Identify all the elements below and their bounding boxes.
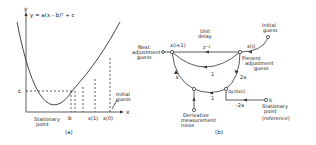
derivative-label: dy/dx(i) xyxy=(228,89,246,94)
node-output xyxy=(162,51,165,54)
arrow-icon xyxy=(205,51,209,54)
y-axis-label: y xyxy=(24,5,28,13)
caption-a: (a) xyxy=(65,129,73,135)
noise-label-3: noise xyxy=(181,122,194,128)
gain-k-branch xyxy=(172,52,194,89)
diagram-canvas: y x y = a(x - b)² + c c b x(1) x(0) Stat… xyxy=(0,0,316,145)
arrow-icon xyxy=(203,66,207,69)
stationary-ref-label-2: point xyxy=(264,108,277,115)
c-label: c xyxy=(18,87,21,94)
arrow-icon xyxy=(193,97,196,101)
present-guess-label-3: guess xyxy=(254,65,269,72)
equation-label: y = a(x - b)² + c xyxy=(30,12,75,19)
gain-1-lower-branch xyxy=(194,89,226,93)
x-axis-arrow-icon xyxy=(120,111,124,114)
panel-a xyxy=(17,14,122,112)
x-axis-label: x xyxy=(126,108,130,115)
next-guess-label-3: guess xyxy=(137,54,152,61)
gain-2a-label: 2a xyxy=(240,74,246,80)
gain-neg2a-label: -2a xyxy=(236,102,244,108)
parabola-curve xyxy=(17,22,120,105)
gain-1-label: 1 xyxy=(211,71,214,77)
gain-1-branch xyxy=(172,52,240,67)
unit-delay-label-2: delay xyxy=(198,33,212,40)
initial-guess-label-2: guess xyxy=(116,96,131,103)
node-b xyxy=(264,98,267,101)
b-label: b xyxy=(68,115,72,121)
x-i-label: x(i) xyxy=(247,43,255,49)
node-next xyxy=(170,50,173,53)
node-present xyxy=(238,50,241,53)
stationary-ref-label-3: (reference) xyxy=(262,115,290,121)
caption-b: (b) xyxy=(215,129,223,135)
stationary-point-label-2: point xyxy=(36,121,49,128)
node-initial xyxy=(266,35,269,38)
x0-label: x(0) xyxy=(103,115,113,121)
gain-1-lower-label: 1 xyxy=(211,95,214,101)
initial-guess-b-label-2: guess xyxy=(263,27,278,34)
y-axis-arrow-icon xyxy=(25,12,28,16)
gain-k-label: k xyxy=(176,74,179,80)
node-noise-sum xyxy=(192,87,195,90)
z-inverse-label: z⁻¹ xyxy=(203,44,210,50)
x-next-label: x(i+1) xyxy=(170,42,186,48)
x1-label: x(1) xyxy=(88,115,98,121)
